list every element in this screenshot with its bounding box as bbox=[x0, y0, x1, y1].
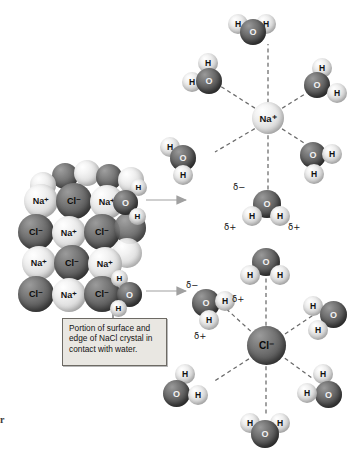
hydrogen-atom bbox=[270, 265, 290, 285]
figure-canvas: Na⁺ Cl⁻ Na⁺ Cl⁻ Na⁺ Cl⁻ Na⁺ Cl⁻ Na⁺ Cl⁻ … bbox=[0, 0, 359, 457]
oxygen-atom bbox=[315, 381, 342, 408]
crystal-ion-cl bbox=[56, 183, 92, 219]
hydrogen-atom bbox=[110, 300, 127, 317]
oxygen-atom bbox=[240, 19, 266, 45]
hydrogen-atom bbox=[129, 208, 146, 225]
delta-positive-label: δ+ bbox=[288, 222, 300, 232]
delta-negative-label: δ− bbox=[186, 280, 198, 290]
delta-positive-label: δ+ bbox=[194, 331, 206, 341]
hydrogen-atom bbox=[242, 206, 262, 226]
oxygen-atom bbox=[163, 380, 190, 407]
delta-positive-label: δ+ bbox=[232, 294, 244, 304]
oxygen-atom bbox=[196, 68, 222, 94]
sodium-ion bbox=[252, 102, 284, 134]
chloride-ion bbox=[247, 326, 286, 365]
hydrogen-atom bbox=[304, 164, 324, 184]
hydrogen-atom bbox=[188, 385, 208, 405]
hydrogen-atom bbox=[322, 144, 342, 164]
delta-negative-label: δ− bbox=[233, 182, 245, 192]
crystal-ion-cl bbox=[18, 214, 54, 250]
crystal-ion-cl bbox=[54, 245, 90, 281]
delta-positive-label: δ+ bbox=[224, 222, 236, 232]
hydrogen-atom bbox=[327, 83, 347, 103]
hydrogen-atom bbox=[297, 383, 317, 403]
page-edge-mark: r bbox=[0, 414, 4, 425]
crystal-ion-na bbox=[52, 278, 86, 312]
hydrogen-atom bbox=[270, 206, 290, 226]
hydrogen-atom bbox=[308, 320, 328, 340]
crystal-ion-na bbox=[24, 184, 58, 218]
crystal-ion-cl bbox=[18, 276, 54, 312]
hydrogen-atom bbox=[173, 165, 193, 185]
oxygen-atom bbox=[251, 420, 279, 448]
hydrogen-atom bbox=[199, 310, 219, 330]
crystal-ion-na bbox=[22, 246, 56, 280]
hydrogen-atom bbox=[240, 265, 260, 285]
caption-box: Portion of surface and edge of NaCl crys… bbox=[62, 318, 167, 366]
